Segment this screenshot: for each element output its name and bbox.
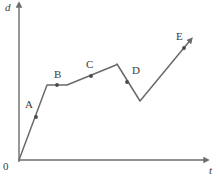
data-point-c	[89, 74, 93, 78]
point-label-a: A	[25, 99, 33, 110]
x-axis-label: t	[209, 165, 212, 176]
point-label-b: B	[54, 69, 61, 80]
data-point-d	[125, 80, 129, 84]
data-point-markers	[34, 46, 186, 119]
plot-canvas	[0, 0, 219, 180]
point-label-e: E	[176, 31, 183, 42]
origin-label: 0	[3, 161, 9, 172]
data-point-b	[55, 83, 59, 87]
y-axis-label: d	[5, 2, 11, 13]
point-label-d: D	[132, 65, 140, 76]
distance-time-curve	[19, 41, 190, 160]
distance-time-graph-figure: d t 0 A B C D E	[0, 0, 219, 180]
data-point-e	[182, 46, 186, 50]
data-point-a	[34, 115, 38, 119]
point-label-c: C	[86, 59, 93, 70]
